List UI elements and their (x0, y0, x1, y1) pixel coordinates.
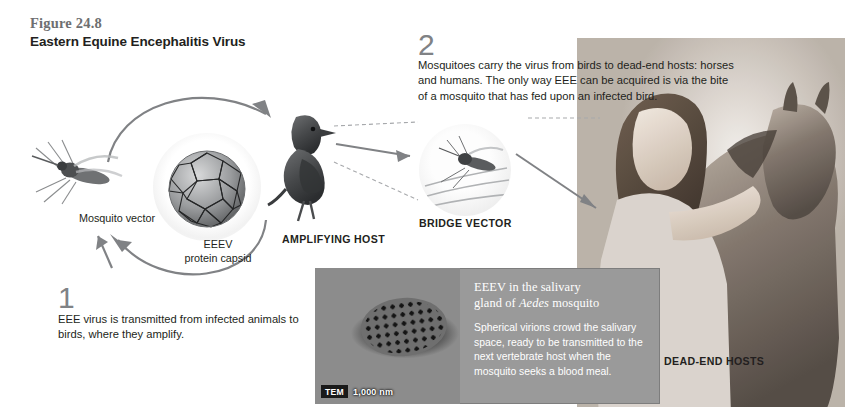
label-eeev-protein-capsid: EEEV protein capsid (163, 237, 273, 265)
salivary-gland-inset-panel: TEM 1,000 nm EEEV in the salivary gland … (315, 268, 660, 404)
figure-title: Eastern Equine Encephalitis Virus (30, 34, 246, 49)
inset-text-block: EEEV in the salivary gland of Aedes mosq… (460, 268, 660, 404)
micrograph-technique-badge: TEM (321, 385, 348, 398)
scale-bar-length: 1,000 nm (353, 387, 393, 397)
step-2-text: Mosquitoes carry the virus from birds to… (418, 58, 736, 104)
inset-heading-genus: Aedes (519, 296, 549, 310)
tem-micrograph: TEM 1,000 nm (315, 268, 460, 404)
inset-heading: EEEV in the salivary gland of Aedes mosq… (474, 280, 646, 312)
inset-heading-line2-pre: gland of (474, 296, 519, 310)
step-1-number: 1 (58, 283, 75, 313)
mosquito-vector-image (18, 132, 143, 212)
label-dead-end-hosts: DEAD-END HOSTS (664, 355, 764, 367)
bird-photo (258, 105, 348, 225)
label-bridge-vector: BRIDGE VECTOR (419, 217, 512, 229)
virus-capsid-model (153, 133, 261, 241)
label-mosquito-vector: Mosquito vector (62, 212, 172, 224)
step-2-number: 2 (418, 30, 435, 60)
virion-cluster (357, 292, 450, 361)
step-1-text: EEE virus is transmitted from infected a… (58, 312, 308, 343)
label-capsid-line2: protein capsid (184, 252, 251, 264)
bottom-strip (0, 407, 845, 416)
label-capsid-line1: EEEV (204, 238, 233, 250)
figure-number: Figure 24.8 (30, 15, 102, 32)
figure-container: Figure 24.8 Eastern Equine Encephalitis … (0, 0, 845, 416)
scale-bar: TEM 1,000 nm (321, 385, 393, 398)
inset-heading-line2-post: mosquito (549, 296, 599, 310)
inset-heading-line1: EEEV in the salivary (474, 280, 581, 294)
inset-body-text: Spherical virions crowd the salivary spa… (474, 321, 646, 380)
bridge-vector-arrows (300, 100, 780, 240)
bridge-vector-image (419, 124, 511, 216)
label-amplifying-host: AMPLIFYING HOST (282, 233, 385, 245)
